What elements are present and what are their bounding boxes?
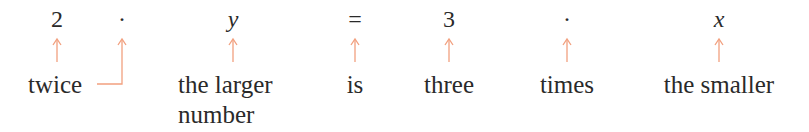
arrow-x-icon [715,39,723,62]
label-is: is [347,70,364,100]
arrow-two-icon [53,39,61,62]
symbol-multiply-dot: · [118,4,126,34]
symbol-equals: = [348,4,362,34]
arrow-equals-icon [351,39,359,62]
label-times: times [540,70,594,100]
symbol-three: 3 [443,4,455,34]
label-the-smaller: the smaller [664,70,774,100]
arrow-y-icon [229,39,237,62]
symbol-two: 2 [51,4,63,34]
symbol-x: x [714,4,725,34]
arrow-dot2-icon [563,39,571,62]
label-three: three [424,70,474,100]
label-twice: twice [28,70,82,100]
label-the-larger: the larger [178,70,273,100]
symbol-y: y [228,4,239,34]
label-the-larger-number: the larger number [178,70,273,130]
label-number: number [178,100,273,130]
arrow-three-icon [445,39,453,62]
symbol-multiply-dot-2: · [563,4,571,34]
arrow-dot1-elbow-icon [97,39,126,84]
